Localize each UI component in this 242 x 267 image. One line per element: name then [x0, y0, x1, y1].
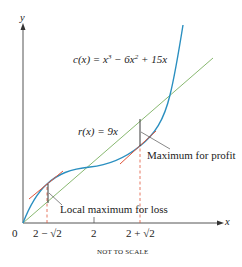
cost-label-rhs: + 15x — [138, 53, 167, 65]
tick-label-2-plus-root2: 2 + √2 — [126, 228, 155, 239]
cost-function-label: c(x) = x3 − 6x2 + 15x — [73, 54, 167, 65]
x-axis-arrow-icon — [217, 221, 224, 226]
profit-annotation: Maximum for profit — [147, 150, 236, 161]
origin-label: 0 — [12, 228, 18, 239]
tangent-left — [29, 171, 63, 199]
revenue-line — [23, 58, 213, 223]
y-axis-arrow-icon — [21, 23, 26, 30]
tick-label-2-minus-root2: 2 − √2 — [33, 228, 62, 239]
loss-annotation: Local maximum for loss — [60, 204, 168, 215]
revenue-function-label: r(x) = 9x — [78, 126, 118, 137]
y-axis-label: y — [20, 13, 25, 24]
caption: NOT TO SCALE — [97, 249, 148, 256]
x-axis-label: x — [225, 217, 230, 228]
cost-revenue-diagram: y x 0 2 − √2 2 2 + √2 c(x) = x3 − 6x2 + … — [0, 0, 242, 267]
cost-label-lhs: c(x) = x — [73, 53, 108, 65]
cost-label-mid: − 6x — [111, 53, 134, 65]
tick-label-2: 2 — [91, 228, 97, 239]
